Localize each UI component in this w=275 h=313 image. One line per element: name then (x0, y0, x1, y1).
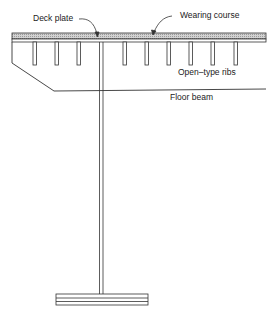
open-type-ribs (33, 42, 238, 65)
deck-cross-section-diagram (0, 0, 275, 313)
deck-plate (12, 39, 266, 42)
stem (100, 42, 104, 294)
wearing-course-label: Wearing course (180, 10, 239, 20)
deck-plate-label: Deck plate (33, 13, 73, 23)
wearing-course (12, 33, 266, 39)
wearing-course-leader-arrow (152, 16, 173, 35)
open-type-ribs-label: Open–type ribs (178, 67, 236, 77)
floor-beam-label: Floor beam (170, 92, 213, 102)
bottom-flange (56, 294, 148, 305)
